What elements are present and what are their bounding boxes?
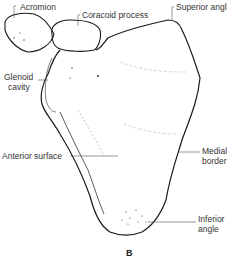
oblique-ridge — [78, 110, 104, 156]
label-superior-angle: Superior angle — [176, 2, 227, 12]
label-acromion: Acromion — [20, 2, 56, 12]
scapula-outline — [41, 20, 200, 235]
label-anterior-surface: Anterior surface — [2, 151, 62, 161]
lateral-ridge — [60, 112, 104, 214]
label-medial-border-line1: Medial — [202, 146, 227, 156]
label-medial-border-line2: border — [202, 156, 227, 166]
leader-superior-angle — [172, 7, 174, 20]
coracoid-shape — [52, 20, 101, 51]
acromion-shape — [5, 13, 54, 52]
subscapular-ridge-2 — [124, 124, 176, 134]
subscapular-ridge — [120, 62, 186, 72]
label-glenoid-cavity-line2: cavity — [8, 82, 30, 92]
label-inferior-angle-line2: angle — [198, 224, 219, 234]
label-inferior-angle-line1: Inferior — [198, 214, 224, 224]
leader-acromion — [14, 6, 16, 18]
stipple-dots — [13, 32, 146, 224]
panel-label: B — [126, 248, 133, 258]
label-coracoid-process: Coracoid process — [82, 10, 148, 20]
scapula-diagram — [0, 0, 227, 260]
label-glenoid-cavity-line1: Glenoid — [4, 72, 33, 82]
